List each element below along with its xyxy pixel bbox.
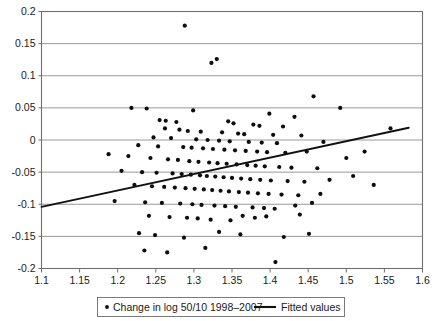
data-point bbox=[156, 144, 160, 148]
data-point bbox=[119, 169, 123, 173]
data-point bbox=[209, 218, 213, 222]
data-point bbox=[158, 118, 162, 122]
y-tick-label: -0.2 bbox=[17, 262, 35, 274]
data-point bbox=[266, 192, 270, 196]
y-tick-label: 0 bbox=[30, 134, 36, 146]
data-point bbox=[218, 189, 222, 193]
y-tick-label: 0.05 bbox=[15, 101, 36, 113]
data-point bbox=[286, 179, 290, 183]
data-point bbox=[176, 158, 180, 162]
data-point bbox=[256, 191, 260, 195]
data-point bbox=[222, 175, 226, 179]
legend-marker-scatter bbox=[105, 305, 109, 309]
data-point bbox=[327, 178, 331, 182]
data-point bbox=[273, 207, 277, 211]
data-point bbox=[260, 140, 264, 144]
data-point bbox=[213, 175, 217, 179]
data-point bbox=[196, 216, 200, 220]
data-point bbox=[205, 174, 209, 178]
data-point bbox=[169, 136, 173, 140]
data-point bbox=[183, 24, 187, 28]
data-point bbox=[275, 141, 279, 145]
data-point bbox=[177, 128, 181, 132]
data-point bbox=[362, 149, 366, 153]
x-tick-label: 1.2 bbox=[110, 274, 125, 286]
data-point bbox=[264, 214, 268, 218]
x-tick-label: 1.15 bbox=[69, 274, 90, 286]
data-point bbox=[190, 146, 194, 150]
data-point bbox=[215, 161, 219, 165]
data-point bbox=[174, 120, 178, 124]
data-point bbox=[142, 248, 146, 252]
data-point bbox=[315, 166, 319, 170]
data-point bbox=[302, 180, 306, 184]
data-point bbox=[167, 215, 171, 219]
data-point bbox=[289, 166, 293, 170]
data-point bbox=[199, 130, 203, 134]
y-tick-label: 0.1 bbox=[21, 69, 36, 81]
data-point bbox=[129, 106, 133, 110]
data-point bbox=[372, 183, 376, 187]
data-point bbox=[223, 204, 227, 208]
data-point bbox=[113, 199, 117, 203]
data-point bbox=[202, 187, 206, 191]
data-point bbox=[140, 170, 144, 174]
data-point bbox=[209, 61, 213, 65]
data-point bbox=[222, 148, 226, 152]
data-point bbox=[246, 191, 250, 195]
x-tick-label: 1.45 bbox=[298, 274, 319, 286]
x-tick-label: 1.1 bbox=[34, 274, 49, 286]
data-point bbox=[225, 162, 229, 166]
data-point bbox=[277, 165, 281, 169]
data-point bbox=[293, 203, 297, 207]
data-point bbox=[215, 57, 219, 61]
data-point bbox=[296, 193, 300, 197]
y-tick-label: -0.15 bbox=[12, 230, 36, 242]
data-point bbox=[162, 185, 166, 189]
data-point bbox=[145, 106, 149, 110]
data-point bbox=[153, 233, 157, 237]
data-point bbox=[244, 149, 248, 153]
data-point bbox=[151, 135, 155, 139]
data-point bbox=[201, 146, 205, 150]
x-tick-label: 1.55 bbox=[374, 274, 395, 286]
data-point bbox=[248, 177, 252, 181]
x-tick-label: 1.35 bbox=[222, 274, 243, 286]
data-point bbox=[160, 201, 164, 205]
data-point bbox=[185, 216, 189, 220]
data-point bbox=[281, 124, 285, 128]
x-tick-label: 1.3 bbox=[187, 274, 202, 286]
chart-legend: Change in log 50/10 1998–2007 Fitted val… bbox=[98, 298, 345, 317]
data-point bbox=[228, 218, 232, 222]
figure-background bbox=[0, 0, 438, 321]
x-tick-label: 1.6 bbox=[415, 274, 430, 286]
y-tick-label: -0.05 bbox=[12, 166, 36, 178]
data-point bbox=[292, 115, 296, 119]
data-point bbox=[234, 205, 238, 209]
data-point bbox=[196, 160, 200, 164]
data-point bbox=[226, 119, 230, 123]
data-point bbox=[165, 250, 169, 254]
data-point bbox=[262, 206, 266, 210]
data-point bbox=[203, 246, 207, 250]
data-point bbox=[263, 164, 267, 168]
data-point bbox=[147, 214, 151, 218]
data-point bbox=[220, 130, 224, 134]
data-point bbox=[273, 260, 277, 264]
data-point bbox=[126, 154, 130, 158]
data-point bbox=[241, 214, 245, 218]
data-point bbox=[298, 212, 302, 216]
data-point bbox=[267, 112, 271, 116]
data-point bbox=[182, 236, 186, 240]
data-point bbox=[228, 139, 232, 143]
data-point bbox=[279, 193, 283, 197]
data-point bbox=[212, 203, 216, 207]
data-point bbox=[242, 132, 246, 136]
data-point bbox=[170, 171, 174, 175]
data-point bbox=[271, 133, 275, 137]
data-point bbox=[154, 171, 158, 175]
data-point bbox=[255, 149, 259, 153]
legend-label-fitted: Fitted values bbox=[281, 301, 341, 313]
data-point bbox=[181, 145, 185, 149]
data-point bbox=[206, 138, 210, 142]
